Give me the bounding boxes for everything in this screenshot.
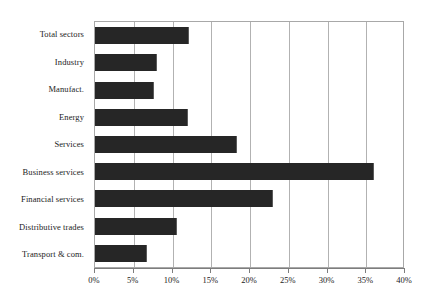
axis-tick-label: 25% bbox=[280, 275, 296, 285]
axis-tick-label: 35% bbox=[357, 275, 373, 285]
bar bbox=[95, 163, 374, 180]
category-label: Financial services bbox=[0, 186, 90, 213]
category-label: Total sectors bbox=[0, 21, 90, 48]
x-axis-ticks bbox=[94, 268, 404, 273]
axis-tick bbox=[249, 268, 250, 273]
category-label: Services bbox=[0, 131, 90, 158]
plot-area bbox=[94, 21, 404, 268]
x-axis-tick-labels: 0%5%10%15%20%25%30%35%40% bbox=[94, 275, 404, 289]
bar-row bbox=[95, 49, 403, 76]
axis-tick bbox=[327, 268, 328, 273]
bar-row bbox=[95, 76, 403, 103]
category-label: Distributive trades bbox=[0, 213, 90, 240]
bar-row bbox=[95, 158, 403, 185]
bar-row bbox=[95, 104, 403, 131]
axis-tick bbox=[172, 268, 173, 273]
bar-row bbox=[95, 240, 403, 267]
axis-tick-label: 0% bbox=[88, 275, 99, 285]
category-label: Industry bbox=[0, 48, 90, 75]
bar bbox=[95, 82, 154, 99]
category-label: Transport & com. bbox=[0, 241, 90, 268]
category-label: Business services bbox=[0, 158, 90, 185]
bar bbox=[95, 27, 189, 44]
bar bbox=[95, 218, 177, 235]
bar-row bbox=[95, 131, 403, 158]
category-label: Energy bbox=[0, 103, 90, 130]
bar-chart: Total sectorsIndustryManufact.EnergyServ… bbox=[0, 0, 430, 303]
axis-tick-label: 5% bbox=[127, 275, 138, 285]
bar bbox=[95, 54, 157, 71]
axis-tick-label: 10% bbox=[164, 275, 180, 285]
axis-tick bbox=[404, 268, 405, 273]
category-axis-labels: Total sectorsIndustryManufact.EnergyServ… bbox=[0, 21, 90, 268]
axis-tick bbox=[365, 268, 366, 273]
bar-series bbox=[95, 22, 403, 267]
axis-tick bbox=[288, 268, 289, 273]
bar-row bbox=[95, 22, 403, 49]
axis-tick-label: 40% bbox=[396, 275, 412, 285]
axis-tick bbox=[210, 268, 211, 273]
bar bbox=[95, 190, 273, 207]
axis-tick-label: 20% bbox=[241, 275, 257, 285]
axis-tick-label: 30% bbox=[319, 275, 335, 285]
axis-tick-label: 15% bbox=[202, 275, 218, 285]
bar-row bbox=[95, 185, 403, 212]
axis-tick bbox=[94, 268, 95, 273]
bar-row bbox=[95, 213, 403, 240]
bar bbox=[95, 109, 188, 126]
bar bbox=[95, 136, 237, 153]
category-label: Manufact. bbox=[0, 76, 90, 103]
axis-tick bbox=[133, 268, 134, 273]
bar bbox=[95, 245, 147, 262]
